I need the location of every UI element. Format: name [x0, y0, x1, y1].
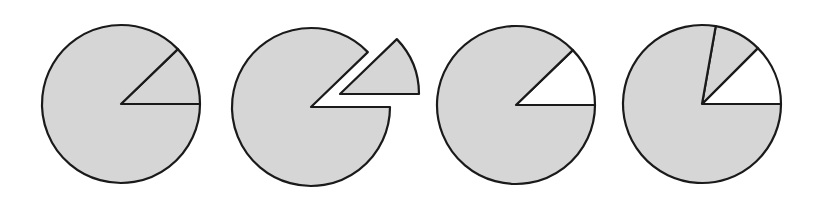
- pie-2-wedge-exploded-slice-remainder: [232, 28, 390, 186]
- pie-3-wedge-removed: [437, 26, 595, 184]
- pie-groups: [42, 25, 781, 186]
- figure-root: [0, 0, 827, 202]
- pie-4-wedge-subdivided: [623, 25, 781, 183]
- pie-3-wedge-removed-slice-remainder: [437, 26, 595, 184]
- pie-chart-canvas: [0, 0, 827, 202]
- pie-2-wedge-exploded: [232, 28, 419, 186]
- pie-fraction-series: [0, 0, 827, 202]
- pie-1-wedge-outlined: [42, 25, 200, 183]
- pie-1-wedge-outlined-slice-remainder: [42, 25, 200, 183]
